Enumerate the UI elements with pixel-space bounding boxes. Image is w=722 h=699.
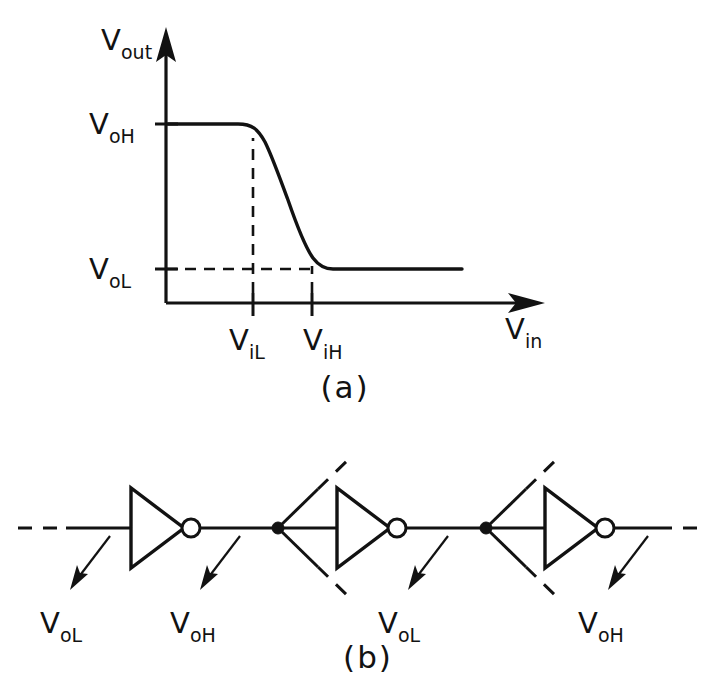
tick-label-vil: V iL: [229, 323, 265, 363]
inverter-1-triangle: [131, 488, 184, 568]
leader-1-label-base: V: [40, 606, 60, 640]
fanout-node-1-branch-down-solid: [278, 528, 318, 567]
tick-label-vol: V oL: [89, 252, 132, 292]
leader-3-label-sub: oL: [398, 624, 421, 646]
inverter-2-bubble: [388, 519, 406, 537]
panel-a: V out V in V oH V oL V iL V iH (a): [89, 23, 545, 405]
inverter-1: [131, 488, 200, 568]
panel-b: V oL V oH V oL V oH (b): [18, 456, 706, 675]
transfer-curve: [168, 124, 462, 269]
inverter-2: [337, 488, 406, 568]
fanout-node-2-branch-down-solid: [486, 528, 526, 567]
fanout-node-1-branch-up-dashed: [318, 456, 352, 489]
fanout-node-2-branch-down-dashed: [526, 567, 560, 600]
fanout-node-2: [480, 456, 560, 600]
tick-label-vih-sub: iH: [323, 341, 343, 363]
inverter-3: [545, 488, 614, 568]
fanout-node-2-branch-up-solid: [486, 489, 526, 528]
fanout-node-1-branch-down-dashed: [318, 567, 352, 600]
leader-3: V oL: [378, 536, 448, 646]
y-axis-label: V out: [101, 23, 152, 63]
x-axis-label-sub: in: [525, 330, 542, 352]
tick-label-vol-sub: oL: [109, 270, 132, 292]
tick-label-vih: V iH: [303, 323, 343, 363]
leader-2: V oH: [170, 536, 240, 646]
leader-4: V oH: [578, 536, 648, 646]
inverter-3-triangle: [545, 488, 598, 568]
inverter-3-bubble: [596, 519, 614, 537]
inverter-1-bubble: [182, 519, 200, 537]
leader-2-line: [208, 536, 240, 578]
caption-a: (a): [320, 369, 369, 405]
leader-4-line: [616, 536, 648, 578]
x-axis-label-base: V: [505, 312, 525, 346]
figure-root: V out V in V oH V oL V iL V iH (a): [0, 0, 722, 699]
tick-label-vil-base: V: [229, 323, 249, 357]
leader-2-label-sub: oH: [190, 624, 216, 646]
leader-1: V oL: [40, 536, 110, 646]
y-axis-label-sub: out: [121, 41, 152, 63]
x-axis-label: V in: [505, 312, 542, 352]
fanout-node-1-branch-up-solid: [278, 489, 318, 528]
inverter-2-triangle: [337, 488, 390, 568]
tick-label-voh-sub: oH: [109, 125, 135, 147]
fanout-node-1: [272, 456, 352, 600]
leader-4-label-sub: oH: [598, 624, 624, 646]
x-axis: [166, 293, 545, 313]
tick-label-vih-base: V: [303, 323, 323, 357]
caption-b: (b): [343, 639, 393, 675]
y-axis: [156, 27, 176, 303]
leader-3-line: [416, 536, 448, 578]
leader-1-line: [78, 536, 110, 578]
y-axis-label-base: V: [101, 23, 121, 57]
tick-label-voh: V oH: [89, 107, 135, 147]
leader-2-label-base: V: [170, 606, 190, 640]
fanout-node-2-branch-up-dashed: [526, 456, 560, 489]
tick-label-vol-base: V: [89, 252, 109, 286]
leader-4-label-base: V: [578, 606, 598, 640]
leader-1-label-sub: oL: [60, 624, 83, 646]
tick-label-voh-base: V: [89, 107, 109, 141]
tick-label-vil-sub: iL: [249, 341, 265, 363]
leader-3-label-base: V: [378, 606, 398, 640]
